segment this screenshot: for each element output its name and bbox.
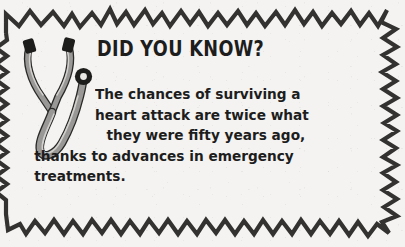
fact-line: thanks to advances in emergency — [0, 146, 385, 167]
fact-line: The chances of surviving a — [0, 84, 385, 105]
fact-line: they were fifty years ago, — [0, 125, 385, 146]
fact-line: heart attack are twice what — [0, 105, 385, 126]
fact-text: The chances of surviving a heart attack … — [0, 84, 405, 187]
page-title: DID YOU KNOW? — [97, 39, 264, 60]
fact-line: treatments. — [0, 166, 385, 187]
did-you-know-card: DID YOU KNOW? The chances of surviving a… — [0, 0, 405, 247]
